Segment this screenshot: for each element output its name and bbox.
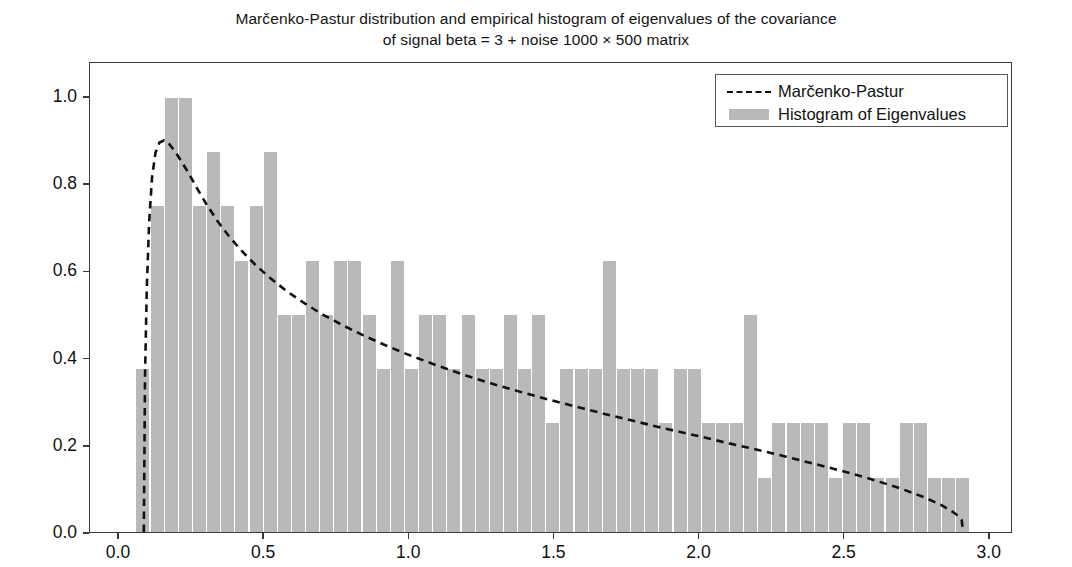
y-tick-label: 1.0	[15, 86, 77, 107]
y-tick-mark	[83, 532, 89, 534]
y-tick-mark	[83, 271, 89, 273]
x-tick-label: 1.0	[373, 542, 443, 563]
x-tick-mark	[553, 533, 555, 539]
y-tick-mark	[83, 96, 89, 98]
chart-title-line-2: of signal beta = 3 + noise 1000 × 500 ma…	[0, 29, 1072, 50]
x-tick-label: 0.5	[228, 542, 298, 563]
plot-inner	[90, 63, 1011, 532]
marcenko-pastur-curve	[90, 63, 1011, 532]
gray-patch-key-icon	[726, 109, 772, 120]
y-tick-mark	[83, 358, 89, 360]
dashed-line-key-icon	[726, 91, 772, 93]
legend-label-histogram: Histogram of Eigenvalues	[772, 105, 966, 124]
y-tick-label: 0.0	[15, 522, 77, 543]
x-tick-mark	[262, 533, 264, 539]
y-tick-label: 0.4	[15, 348, 77, 369]
x-tick-label: 3.0	[954, 542, 1024, 563]
x-tick-mark	[843, 533, 845, 539]
legend-item-marcenko-pastur[interactable]: Marčenko-Pastur	[726, 80, 999, 103]
y-tick-mark	[83, 183, 89, 185]
y-tick-label: 0.2	[15, 435, 77, 456]
x-tick-label: 2.0	[664, 542, 734, 563]
x-tick-label: 1.5	[518, 542, 588, 563]
legend-label-marcenko-pastur: Marčenko-Pastur	[772, 82, 904, 101]
chart-title-line-1: Marčenko-Pastur distribution and empiric…	[0, 8, 1072, 29]
y-tick-label: 0.6	[15, 260, 77, 281]
figure-canvas: Marčenko-Pastur distribution and empiric…	[0, 0, 1072, 567]
x-tick-mark	[117, 533, 119, 539]
x-tick-label: 2.5	[809, 542, 879, 563]
chart-title: Marčenko-Pastur distribution and empiric…	[0, 8, 1072, 50]
x-tick-mark	[988, 533, 990, 539]
legend-item-histogram[interactable]: Histogram of Eigenvalues	[726, 103, 999, 126]
plot-area	[89, 62, 1012, 533]
y-tick-mark	[83, 445, 89, 447]
x-tick-mark	[408, 533, 410, 539]
x-tick-label: 0.0	[83, 542, 153, 563]
legend-box: Marčenko-Pastur Histogram of Eigenvalues	[715, 74, 1008, 127]
x-tick-mark	[698, 533, 700, 539]
mp-density-path	[144, 140, 963, 532]
y-tick-label: 0.8	[15, 173, 77, 194]
